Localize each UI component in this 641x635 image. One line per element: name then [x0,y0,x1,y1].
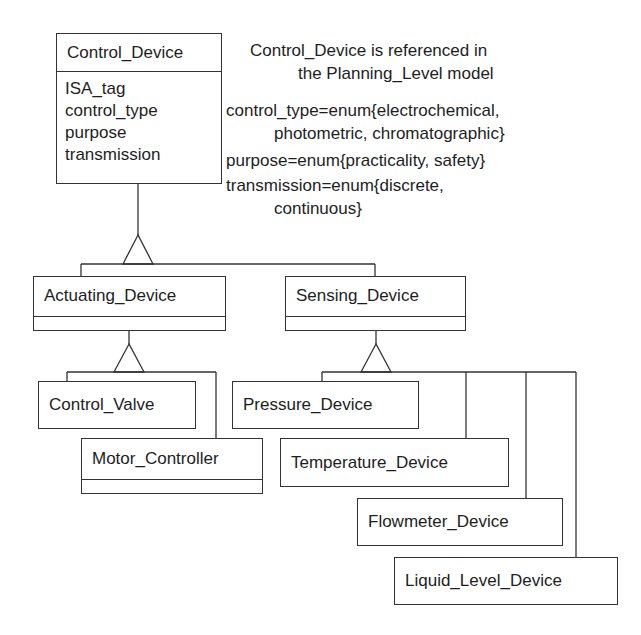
class-name: Control_Device [57,43,221,63]
class-temperature-device: Temperature_Device [280,438,509,487]
class-motor-controller: Motor_Controller [81,438,263,494]
class-actuating-device: Actuating_Device [33,276,226,331]
note-control-type-line-1: control_type=enum{electrochemical, [226,101,500,121]
note-transmission-line-1: transmission=enum{discrete, [226,176,444,196]
note-transmission-line-2: continuous} [274,199,362,219]
class-attributes: ISA_tag control_type purpose transmissio… [65,78,160,166]
class-name: Liquid_Level_Device [395,571,617,591]
class-name: Sensing_Device [286,286,465,306]
attribute-purpose: purpose [65,122,160,144]
class-flowmeter-device: Flowmeter_Device [357,498,563,546]
attribute-isa-tag: ISA_tag [65,78,160,100]
note-control-type-line-2: photometric, chromatographic} [274,124,505,144]
class-pressure-device: Pressure_Device [232,381,419,429]
class-sensing-device: Sensing_Device [285,276,466,331]
attribute-control-type: control_type [65,100,160,122]
class-name: Flowmeter_Device [358,512,562,532]
class-divider [82,479,262,480]
class-liquid-level-device: Liquid_Level_Device [394,557,618,605]
note-reference-line-2: the Planning_Level model [298,64,494,84]
note-reference-line-1: Control_Device is referenced in [250,41,487,61]
class-name: Temperature_Device [281,453,508,473]
class-control-valve: Control_Valve [38,381,196,429]
class-divider [286,316,465,317]
class-divider [57,71,221,72]
class-name: Pressure_Device [233,395,418,415]
generalization-triangle-icon [361,344,391,372]
note-purpose: purpose=enum{practicality, safety} [226,151,485,171]
attribute-transmission: transmission [65,144,160,166]
class-divider [34,316,225,317]
class-name: Motor_Controller [82,449,262,469]
generalization-triangle-icon [123,235,153,264]
class-name: Actuating_Device [34,286,225,306]
class-control-device: Control_Device ISA_tag control_type purp… [56,33,222,184]
class-name: Control_Valve [39,395,195,415]
generalization-triangle-icon [114,344,144,372]
